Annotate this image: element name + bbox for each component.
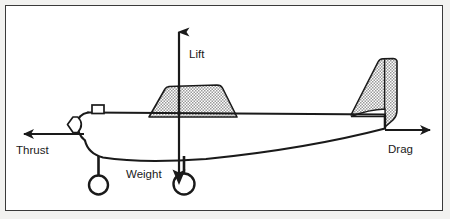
landing-gear-wheel-front bbox=[89, 156, 108, 195]
thrust-label: Thrust bbox=[16, 144, 49, 156]
lift-label: Lift bbox=[189, 48, 205, 60]
fuselage bbox=[77, 113, 385, 161]
cabin-window bbox=[92, 105, 104, 114]
propeller-spinner bbox=[68, 117, 82, 133]
figure-root: Lift Thrust Drag Weight bbox=[0, 0, 450, 219]
figure-frame: Lift Thrust Drag Weight bbox=[5, 5, 443, 211]
drag-label: Drag bbox=[388, 143, 413, 155]
weight-label: Weight bbox=[126, 168, 162, 180]
aircraft-force-diagram: Lift Thrust Drag Weight bbox=[6, 6, 441, 209]
